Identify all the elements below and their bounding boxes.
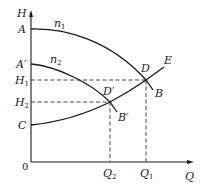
system-curve: [31, 67, 164, 125]
point-d-label: D: [140, 62, 150, 75]
x-axis-arrow-icon: [187, 160, 194, 164]
point-e-label: E: [163, 54, 172, 67]
y-axis-label: H: [16, 7, 27, 20]
point-d-prime-label: D′: [102, 85, 115, 98]
point-b-label: B: [154, 87, 163, 100]
x-axis-label: Q: [185, 170, 194, 183]
curve-n2-label: n2: [50, 53, 62, 67]
point-b-prime-label: B′: [117, 111, 129, 124]
h1-label: H1: [14, 74, 29, 88]
point-a-prime-label: A′: [15, 58, 27, 71]
pump-characteristic-diagram: H Q 0 A A′ C D D′ B B′ E n1 n2 H1 H2 Q2 …: [0, 0, 205, 190]
curve-n1-label: n1: [54, 17, 66, 31]
q1-label: Q1: [140, 167, 154, 181]
point-a-label: A: [17, 23, 26, 36]
h2-label: H2: [14, 96, 29, 110]
q2-label: Q2: [103, 167, 117, 181]
y-axis-arrow-icon: [29, 10, 33, 17]
point-c-label: C: [18, 119, 27, 132]
origin-label: 0: [22, 161, 28, 172]
